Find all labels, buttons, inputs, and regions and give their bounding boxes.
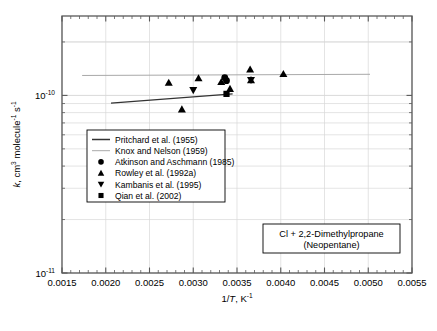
marker-triangle-up — [246, 65, 254, 72]
x-tick-label: 0.0035 — [222, 277, 251, 288]
marker-square — [223, 91, 229, 97]
x-tick-label: 0.0015 — [47, 277, 76, 288]
legend-label: Kambanis et al. (1995) — [115, 180, 202, 190]
series-points — [165, 65, 288, 112]
legend-label: Qian et al. (2002) — [115, 191, 182, 201]
x-tick-label: 0.0040 — [266, 277, 295, 288]
x-tick-label: 0.0030 — [179, 277, 208, 288]
legend-label: Atkinson and Aschmann (1985) — [115, 157, 235, 167]
chart-svg: 0.00150.00200.00250.00300.00350.00400.00… — [0, 0, 437, 331]
x-tick-label: 0.0045 — [310, 277, 339, 288]
legend-label: Knox and Nelson (1959) — [115, 146, 208, 156]
marker-square — [98, 193, 103, 198]
marker-triangle-down — [189, 87, 197, 94]
x-tick-label: 0.0025 — [135, 277, 164, 288]
y-axis-title: k, cm3 molecule-1 s-1 — [10, 101, 22, 188]
marker-circle — [98, 159, 104, 165]
legend: Pritchard et al. (1955)Knox and Nelson (… — [87, 130, 235, 202]
marker-triangle-up — [178, 105, 186, 112]
annotation-box: Cl + 2,2-Dimethylpropane(Neopentane) — [263, 224, 400, 253]
annotation-line-2: (Neopentane) — [303, 240, 359, 250]
y-tick-label: 10-10 — [35, 89, 55, 101]
data-layer — [82, 65, 370, 112]
x-tick-label: 0.0020 — [91, 277, 120, 288]
x-axis-title: 1/T, K-1 — [221, 292, 253, 304]
x-tick-label: 0.0050 — [354, 277, 383, 288]
annotation-line-1: Cl + 2,2-Dimethylpropane — [279, 229, 383, 239]
legend-label: Rowley et al. (1992a) — [115, 168, 196, 178]
marker-triangle-up — [165, 79, 173, 86]
series-points — [223, 91, 229, 97]
legend-item[interactable]: Atkinson and Aschmann (1985) — [98, 157, 234, 167]
chart-figure: 0.00150.00200.00250.00300.00350.00400.00… — [0, 0, 437, 331]
marker-circle — [223, 77, 230, 84]
x-tick-label: 0.0055 — [397, 277, 426, 288]
legend-label: Pritchard et al. (1955) — [115, 135, 198, 145]
